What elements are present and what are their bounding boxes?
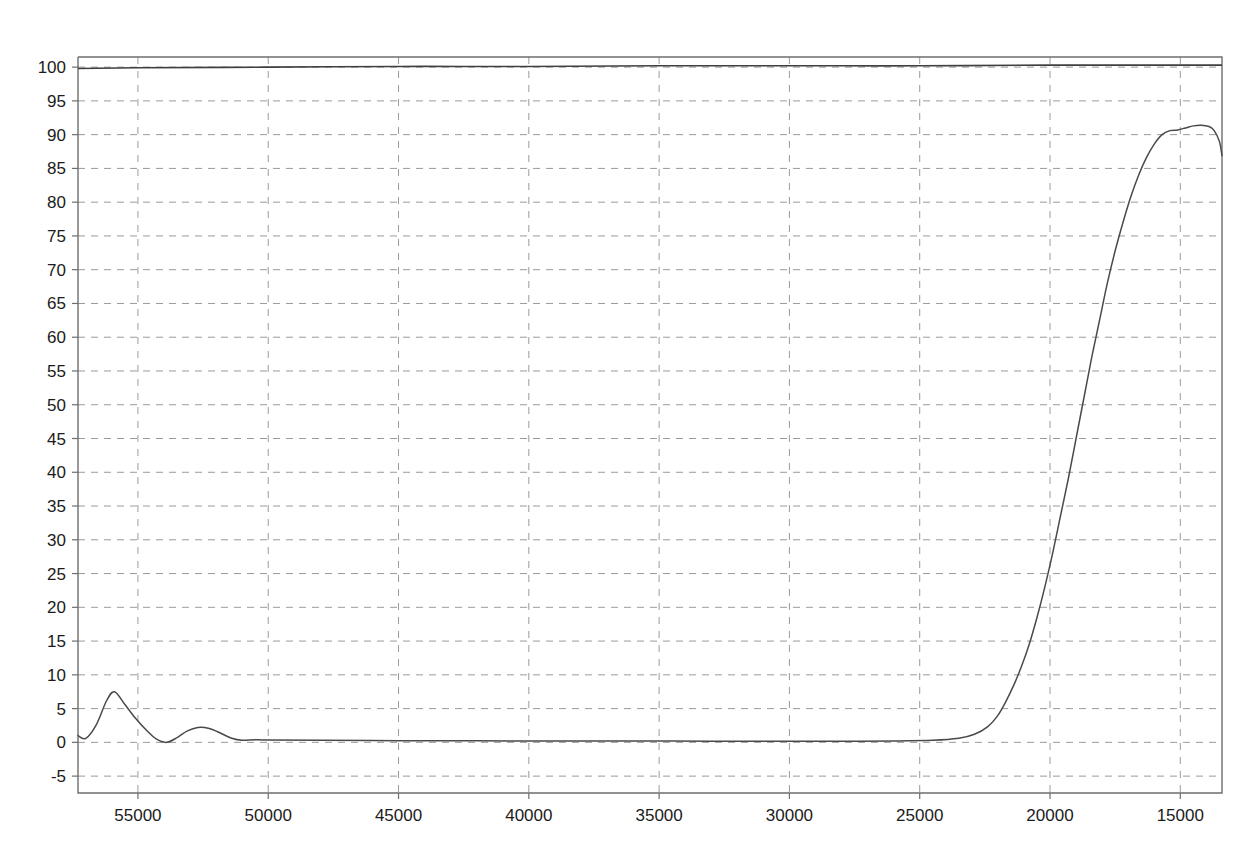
x-axis-tick-label: 20000 [1026, 806, 1073, 825]
x-axis-tick-label: 35000 [635, 806, 682, 825]
x-axis-tick-label: 55000 [114, 806, 161, 825]
y-axis-tick-label: 50 [47, 396, 66, 415]
y-axis-labels: -505101520253035404550556065707580859095… [38, 58, 66, 786]
y-axis-tick-label: 80 [47, 193, 66, 212]
x-axis-tick-label: 15000 [1157, 806, 1204, 825]
y-axis-tick-label: 55 [47, 362, 66, 381]
y-axis-tick-label: 100 [38, 58, 66, 77]
grid-vertical [138, 57, 1180, 793]
chart-container: -505101520253035404550556065707580859095… [0, 0, 1258, 856]
y-axis-tick-label: 30 [47, 531, 66, 550]
y-axis-tick-label: 0 [57, 733, 66, 752]
x-axis-tick-label: 40000 [505, 806, 552, 825]
y-axis-tick-label: 25 [47, 565, 66, 584]
y-axis-tick-label: 40 [47, 463, 66, 482]
y-axis-tick-label: 90 [47, 126, 66, 145]
y-tick-marks [72, 67, 78, 776]
x-axis-tick-label: 30000 [766, 806, 813, 825]
y-axis-tick-label: 95 [47, 92, 66, 111]
x-axis-labels: 5500050000450004000035000300002500020000… [114, 806, 1204, 825]
y-axis-tick-label: -5 [51, 767, 66, 786]
y-axis-tick-label: 15 [47, 632, 66, 651]
y-axis-tick-label: 65 [47, 294, 66, 313]
y-axis-tick-label: 85 [47, 159, 66, 178]
x-axis-tick-label: 50000 [245, 806, 292, 825]
y-axis-tick-label: 10 [47, 666, 66, 685]
y-axis-tick-label: 20 [47, 598, 66, 617]
y-axis-tick-label: 35 [47, 497, 66, 516]
y-axis-tick-label: 70 [47, 261, 66, 280]
x-axis-tick-label: 45000 [375, 806, 422, 825]
x-axis-tick-label: 25000 [896, 806, 943, 825]
y-axis-tick-label: 5 [57, 700, 66, 719]
y-axis-tick-label: 75 [47, 227, 66, 246]
y-axis-tick-label: 45 [47, 430, 66, 449]
y-axis-tick-label: 60 [47, 328, 66, 347]
x-tick-marks [138, 793, 1180, 799]
spectrum-plot: -505101520253035404550556065707580859095… [0, 0, 1258, 856]
